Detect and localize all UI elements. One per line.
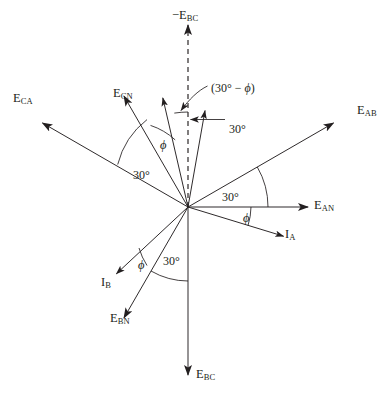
vector-label-text: −E bbox=[172, 8, 187, 22]
phasor-diagram-figure: −EBCEABEANIAECAECNEBCEBNIB30°ϕ30°ϕ30°ϕ30… bbox=[0, 0, 391, 405]
vectors bbox=[43, 25, 334, 375]
arc-thirty-minus-phi bbox=[174, 112, 188, 113]
vector-label-subscript: CA bbox=[21, 96, 33, 106]
vector-short-vector-near-vertical bbox=[188, 110, 205, 207]
vector-label-text: E bbox=[357, 103, 365, 117]
angle-30-callout: 30° bbox=[229, 123, 246, 135]
vector-label-subscript: BN bbox=[118, 316, 130, 326]
vector-e-ab bbox=[188, 123, 333, 207]
vector-label-text: E bbox=[196, 367, 204, 381]
vector-e-ca bbox=[43, 123, 188, 207]
vector-label-e-bc: EBC bbox=[196, 368, 215, 381]
vector-label-e-an: EAN bbox=[314, 199, 334, 212]
vector-label-e-cn: ECN bbox=[113, 87, 133, 100]
vector-label-subscript: B bbox=[105, 280, 111, 290]
vector-i-a bbox=[188, 207, 284, 236]
vector-label-subscript: CN bbox=[121, 91, 133, 101]
expression-thirty-minus-phi: (30° − ϕ) bbox=[211, 82, 255, 94]
vector-label-text: E bbox=[314, 198, 322, 212]
arc-30-upper-left bbox=[118, 120, 147, 165]
angle-phi-upper-left: ϕ bbox=[160, 139, 166, 152]
angle-30-right: 30° bbox=[222, 191, 239, 203]
vector-label-i-b: IB bbox=[101, 276, 111, 289]
vector-label-minus-e-bc: −EBC bbox=[172, 9, 198, 22]
arc-30-right bbox=[257, 167, 268, 207]
vector-label-subscript: BC bbox=[187, 13, 199, 23]
vector-label-text: E bbox=[110, 311, 118, 325]
expression-minus: − bbox=[232, 81, 245, 95]
vector-label-e-bn: EBN bbox=[110, 312, 130, 325]
vector-label-subscript: AN bbox=[322, 203, 335, 213]
vector-label-e-ca: ECA bbox=[13, 92, 33, 105]
vector-label-subscript: AB bbox=[365, 108, 377, 118]
angle-phi-lower-left: ϕ bbox=[138, 259, 144, 272]
vector-label-i-a: IA bbox=[285, 228, 296, 241]
vector-label-subscript: A bbox=[289, 232, 295, 242]
vector-label-text: E bbox=[113, 86, 121, 100]
leader-thirty-minus-phi bbox=[181, 86, 208, 111]
vector-label-text: E bbox=[13, 91, 21, 105]
expression-suffix: ) bbox=[251, 81, 255, 95]
angle-30-upper-left: 30° bbox=[133, 169, 150, 181]
arc-30-lower-left bbox=[151, 271, 188, 281]
vector-label-subscript: BC bbox=[204, 372, 216, 382]
angle-phi-right: ϕ bbox=[243, 212, 249, 225]
expression-prefix: (30 bbox=[211, 81, 227, 95]
angle-arcs bbox=[118, 112, 268, 281]
angle-30-lower-left: 30° bbox=[163, 255, 180, 267]
vector-label-e-ab: EAB bbox=[357, 104, 377, 117]
vector-i-c bbox=[163, 98, 188, 207]
